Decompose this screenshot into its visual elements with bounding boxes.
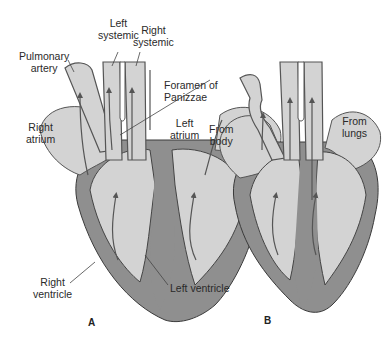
crocodile-heart-diagram: Left systemic Right systemic Pulmonary a… [0,0,385,346]
label-from-body: From body [209,123,234,147]
panel-letter-a: A [88,317,95,328]
label-foramen-of-panizzae: Foramen of Panizzae [164,79,218,103]
label-right-ventricle: Right ventricle [33,276,72,300]
label-left-ventricle: Left ventricle [170,282,230,294]
heart-b [220,62,381,312]
panel-letter-b: B [264,315,271,326]
label-left-atrium: Left atrium [170,117,199,141]
label-right-atrium: Right atrium [26,121,55,145]
label-right-systemic: Right systemic [133,24,174,48]
label-pulmonary-artery: Pulmonary artery [19,50,69,74]
label-from-lungs: From lungs [342,115,367,139]
